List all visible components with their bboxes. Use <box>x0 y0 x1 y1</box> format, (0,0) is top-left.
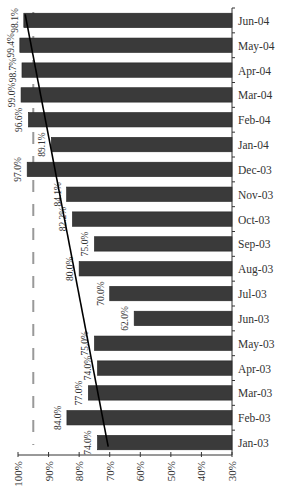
value-label: 99.0% <box>7 83 17 108</box>
value-label: 96.6% <box>14 107 24 132</box>
value-tick-label: 40% <box>195 461 207 481</box>
category-label: Mar-03 <box>238 387 273 399</box>
category-label: Jan-04 <box>238 139 269 151</box>
category-label: Feb-03 <box>238 412 271 424</box>
category-label: Feb-04 <box>238 114 271 126</box>
value-label: 62.0% <box>120 306 130 331</box>
bar-may-04 <box>20 38 232 52</box>
value-label: 75.0% <box>80 232 90 257</box>
value-tick-label: 50% <box>165 461 177 481</box>
trend-line <box>25 14 108 446</box>
bar-mar-03 <box>88 386 232 400</box>
value-tick-label: 60% <box>134 461 146 481</box>
category-label: Mar-04 <box>238 89 273 101</box>
value-tick-label: 100% <box>12 461 24 487</box>
bar-may-03 <box>94 336 232 350</box>
category-label: Apr-04 <box>238 65 271 78</box>
value-label: 74.0% <box>83 430 93 455</box>
category-label: Jul-03 <box>238 288 267 300</box>
category-label: Jun-03 <box>238 313 270 325</box>
category-label: May-03 <box>238 338 275 351</box>
chart-canvas: Jun-0498.1%May-0499.4%Apr-0498.7%Mar-049… <box>0 0 282 492</box>
value-label: 84.0% <box>53 405 63 430</box>
bar-nov-03 <box>67 187 232 201</box>
bar-jan-03 <box>97 435 232 449</box>
bar-apr-04 <box>22 63 232 77</box>
bar-aug-03 <box>79 262 232 276</box>
bar-chart: Jun-0498.1%May-0499.4%Apr-0498.7%Mar-049… <box>0 0 282 492</box>
value-label: 98.1% <box>10 8 20 33</box>
value-tick-label: 90% <box>43 461 55 481</box>
value-label: 89.1% <box>37 132 47 157</box>
value-label: 77.0% <box>74 381 84 406</box>
category-label: Nov-03 <box>238 189 273 201</box>
category-label: Dec-03 <box>238 164 272 176</box>
bar-feb-04 <box>28 113 232 127</box>
category-label: Aug-03 <box>238 263 273 276</box>
category-label: Apr-03 <box>238 363 271 376</box>
value-label: 98.7% <box>8 58 18 83</box>
value-tick-label: 30% <box>226 461 238 481</box>
bar-jun-04 <box>24 13 232 27</box>
value-label: 97.0% <box>13 157 23 182</box>
bar-jun-03 <box>134 311 232 325</box>
category-label: May-04 <box>238 40 275 53</box>
category-label: Jun-04 <box>238 15 270 27</box>
bar-jul-03 <box>110 286 232 300</box>
category-label: Oct-03 <box>238 214 270 226</box>
bar-apr-03 <box>97 361 232 375</box>
value-tick-label: 70% <box>104 461 116 481</box>
bar-oct-03 <box>72 212 232 226</box>
value-tick-label: 80% <box>73 461 85 481</box>
bar-dec-03 <box>27 162 232 176</box>
bar-mar-04 <box>21 88 232 102</box>
bar-sep-03 <box>94 237 232 251</box>
bar-jan-04 <box>51 137 232 151</box>
category-label: Sep-03 <box>238 238 271 251</box>
value-label: 70.0% <box>96 281 106 306</box>
value-label: 99.4% <box>6 33 16 58</box>
bar-feb-03 <box>67 411 232 425</box>
category-label: Jan-03 <box>238 437 269 449</box>
